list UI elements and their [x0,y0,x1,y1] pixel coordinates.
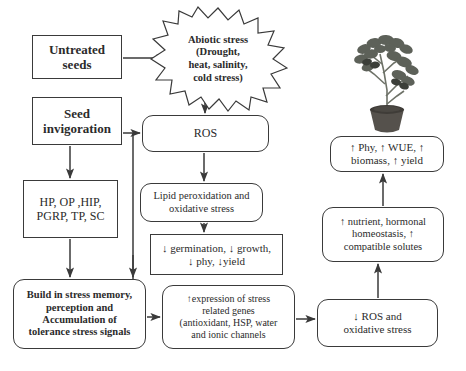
node-gene-expression[interactable]: ↑expression of stressrelated genes(antio… [162,285,295,349]
node-lipid-peroxidation[interactable]: Lipid peroxidation andoxidative stress [140,183,263,222]
abiotic-stress-burst: Abiotic stress(Drought,heat, salinity,co… [148,6,288,112]
node-nutrient-homeostasis-label: ↑ nutrient, hormonalhomeostasis, ↑compat… [326,216,440,253]
node-reduced-growth-label: ↓ germination, ↓ growth,↓ phy, ↓yield [154,242,279,268]
node-lipid-peroxidation-label: Lipid peroxidation andoxidative stress [144,190,259,215]
node-reduced-growth[interactable]: ↓ germination, ↓ growth,↓ phy, ↓yield [150,234,283,275]
potted-plant-photo [344,18,430,136]
node-seed-invigoration-label: Seedinvigoration [36,106,118,137]
node-stress-memory[interactable]: Build in stress memory,perception andAcc… [13,279,146,349]
node-improved-traits-label: ↑ Phy, ↑ WUE, ↑biomass, ↑ yield [334,141,440,167]
abiotic-stress-label: Abiotic stress(Drought,heat, salinity,co… [166,24,270,94]
node-reduced-ros[interactable]: ↓ ROS andoxidative stress [317,299,438,347]
node-reduced-ros-label: ↓ ROS andoxidative stress [321,310,434,336]
abiotic-stress-lines: Abiotic stress(Drought,heat, salinity,co… [188,34,248,84]
node-ros-label: ROS [146,126,265,140]
node-seed-invigoration[interactable]: Seedinvigoration [32,97,122,145]
node-untreated-seeds-label: Untreatedseeds [36,42,118,73]
node-stress-memory-label: Build in stress memory,perception andAcc… [17,289,142,339]
node-improved-traits[interactable]: ↑ Phy, ↑ WUE, ↑biomass, ↑ yield [330,136,444,172]
node-hormones-label: HP, OP ,HIP,PGRP, TP, SC [27,195,114,223]
flowchart-canvas: Abiotic stress(Drought,heat, salinity,co… [0,0,466,371]
node-nutrient-homeostasis[interactable]: ↑ nutrient, hormonalhomeostasis, ↑compat… [322,207,444,262]
node-gene-expression-label: ↑expression of stressrelated genes(antio… [166,293,291,340]
node-hormones[interactable]: HP, OP ,HIP,PGRP, TP, SC [23,180,118,238]
node-untreated-seeds[interactable]: Untreatedseeds [32,35,122,79]
node-ros[interactable]: ROS [142,115,269,152]
